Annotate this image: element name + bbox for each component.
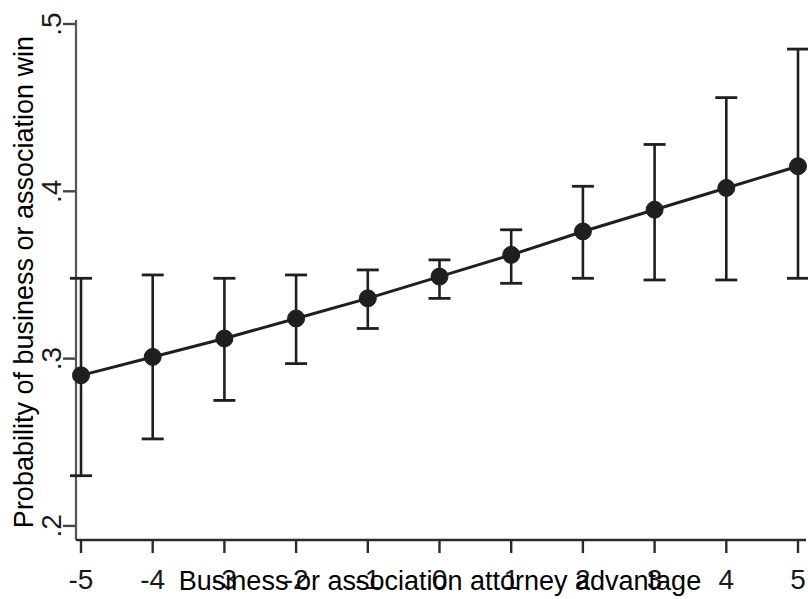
data-point-marker [359,290,376,307]
y-axis-label: Probability of business or association w… [9,36,39,528]
chart-figure: .5.4.3.2 -5-4-3-2-1012345 Probability of… [0,0,808,599]
data-point-marker [288,310,305,327]
data-point-marker [718,179,735,196]
data-point-marker [144,348,161,365]
data-point-marker [503,246,520,263]
y-axis-tick-group: .5.4.3.2 [36,12,76,537]
x-axis-tick-label: 4 [719,564,735,595]
data-point-marker [216,330,233,347]
y-axis-tick-label: .2 [36,514,67,537]
data-point-marker [790,158,807,175]
y-axis-tick-label: .5 [36,12,67,35]
y-axis-tick-label: .3 [36,347,67,370]
data-point-marker [646,201,663,218]
x-axis-tick-label: -5 [69,564,94,595]
data-series-layer [70,49,808,476]
data-point-marker [431,268,448,285]
x-axis-tick-label: -4 [140,564,165,595]
x-axis-tick-label: 5 [790,564,806,595]
y-axis-tick-label: .4 [36,180,67,203]
data-point-marker [73,367,90,384]
data-point-marker [574,223,591,240]
x-axis-label: Business or association attorney advanta… [179,566,701,596]
chart-plot-area: .5.4.3.2 -5-4-3-2-1012345 Probability of… [0,0,808,599]
